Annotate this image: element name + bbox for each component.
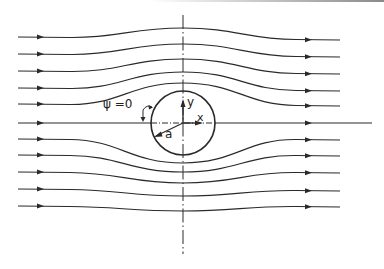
- streamline-s11: [18, 206, 340, 211]
- flow-arrow-icon: [305, 54, 312, 59]
- psi-leader-arrow2-icon: [149, 105, 154, 110]
- flow-arrow-icon: [305, 71, 312, 76]
- flow-arrow-icon: [37, 153, 44, 158]
- streamline-s5: [18, 83, 340, 106]
- flow-arrow-icon: [305, 88, 312, 93]
- streamline-s4: [18, 72, 340, 91]
- radius-label: a: [165, 127, 172, 141]
- flow-arrow-icon: [305, 170, 312, 175]
- psi-zero-label: ψ =0: [103, 97, 132, 111]
- flow-arrow-icon: [37, 170, 44, 175]
- flow-arrow-icon: [305, 137, 312, 142]
- streamlines-group: [18, 28, 340, 211]
- streamline-s10: [18, 189, 340, 196]
- x-axis-label: x: [197, 111, 204, 124]
- flow-arrow-icon: [305, 188, 312, 193]
- psi-leader-arrow-icon: [141, 117, 146, 122]
- flow-arrow-icon: [37, 35, 44, 40]
- flow-arrow-icon: [37, 52, 44, 57]
- flow-arrow-icon: [305, 37, 312, 42]
- flow-arrow-icon: [37, 69, 44, 74]
- y-axis-label: y: [187, 95, 194, 109]
- streamline-s7: [18, 139, 340, 163]
- y-arrow-icon: [181, 99, 186, 107]
- flow-arrow-icon: [37, 137, 44, 142]
- flow-arrow-icon: [305, 103, 312, 108]
- streamline-s9: [18, 172, 340, 183]
- flow-arrow-icon: [305, 204, 312, 209]
- flow-arrow-icon: [37, 86, 44, 91]
- flow-arrow-icon: [37, 204, 44, 209]
- streamline-s2: [18, 44, 340, 57]
- axes-group: [18, 15, 372, 254]
- flow-diagram: ψ =0 y x a: [0, 0, 384, 269]
- radius-arrow-icon: [154, 132, 163, 138]
- flow-arrow-icon: [37, 102, 44, 107]
- flow-arrow-icon: [305, 153, 312, 158]
- flow-arrow-icon: [37, 187, 44, 192]
- streamline-s1: [18, 28, 340, 40]
